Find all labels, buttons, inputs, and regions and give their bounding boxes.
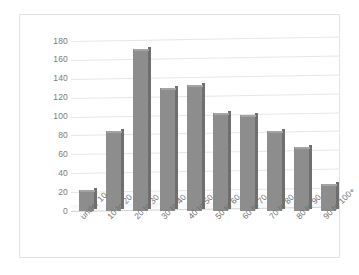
bar-side-face bbox=[148, 47, 151, 209]
bar-top-face bbox=[107, 131, 122, 133]
bar-front-face bbox=[240, 115, 255, 211]
gridline bbox=[71, 37, 340, 42]
bar-top-face bbox=[161, 88, 176, 90]
bar-top-face bbox=[188, 85, 203, 87]
bar-front-face bbox=[213, 113, 228, 211]
y-axis-tick-label: 140 bbox=[40, 74, 68, 83]
bar[interactable] bbox=[187, 85, 202, 211]
y-axis-tick-label: 40 bbox=[40, 169, 68, 178]
gridline bbox=[71, 112, 340, 117]
bar-top-face bbox=[295, 147, 310, 149]
bar-top-face bbox=[80, 190, 95, 192]
bar-chart-figure: 020406080100120140160180 under 1010 to 2… bbox=[0, 0, 359, 275]
y-axis-tick-label: 0 bbox=[40, 207, 68, 216]
bar[interactable] bbox=[213, 113, 228, 211]
y-axis: 020406080100120140160180 bbox=[36, 41, 68, 211]
bar-top-face bbox=[134, 49, 149, 51]
gridline bbox=[71, 55, 340, 60]
x-axis: under 1010 to 2020 to 3030 to 4040 to 50… bbox=[71, 212, 340, 270]
y-axis-tick-label: 80 bbox=[40, 131, 68, 140]
bar-side-face bbox=[175, 86, 178, 209]
bar-front-face bbox=[187, 85, 202, 211]
bar-top-face bbox=[268, 131, 283, 133]
bar-front-face bbox=[267, 131, 282, 211]
y-axis-tick-label: 100 bbox=[40, 112, 68, 121]
bar[interactable] bbox=[160, 88, 175, 211]
bar-side-face bbox=[202, 83, 205, 209]
bar-top-face bbox=[322, 184, 337, 186]
chart-frame: 020406080100120140160180 under 1010 to 2… bbox=[19, 14, 340, 258]
y-axis-tick-label: 160 bbox=[40, 55, 68, 64]
y-axis-tick-label: 20 bbox=[40, 188, 68, 197]
y-axis-tick-label: 60 bbox=[40, 150, 68, 159]
bar[interactable] bbox=[133, 49, 148, 211]
bar-front-face bbox=[160, 88, 175, 211]
bar-top-face bbox=[214, 113, 229, 115]
y-axis-tick-label: 180 bbox=[40, 37, 68, 46]
bar[interactable] bbox=[240, 115, 255, 211]
y-axis-tick-label: 120 bbox=[40, 93, 68, 102]
gridline bbox=[71, 74, 340, 79]
bar[interactable] bbox=[267, 131, 282, 211]
bar-front-face bbox=[133, 49, 148, 211]
bar-top-face bbox=[241, 115, 256, 117]
plot-area bbox=[71, 41, 340, 211]
gridline bbox=[71, 93, 340, 98]
